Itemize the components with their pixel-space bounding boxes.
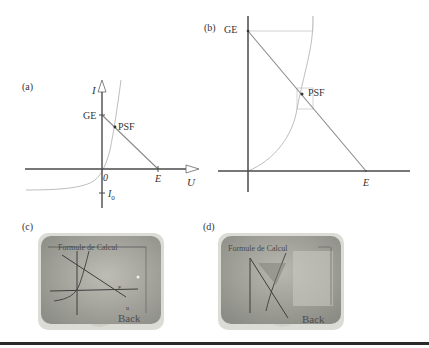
panel-c-screen-title: Formule de Calcul [58, 243, 118, 252]
panel-b-e-point [365, 170, 367, 172]
panel-a-origin-label: 0 [103, 172, 108, 183]
panel-a-label: (a) [22, 81, 33, 93]
panel-b-load-line [248, 31, 366, 171]
panel-d-back-label: Back [302, 313, 325, 325]
panel-a-i-axis-label: I [91, 84, 97, 96]
panel-b-psf-point [301, 93, 304, 96]
panel-b-e-label: E [362, 177, 369, 188]
panel-a-u-arrow-icon [186, 165, 199, 173]
panel-d-label: (d) [203, 221, 215, 233]
panel-b-ge-point [247, 30, 250, 33]
panel-a-psf-label: PSF [118, 121, 135, 132]
bottom-rule [0, 342, 429, 345]
panel-a-ge-label: GE [83, 110, 96, 121]
panel-a-psf-point [114, 126, 117, 129]
panel-b-ge-label: GE [224, 24, 237, 35]
panel-a-i-arrow-icon [98, 80, 106, 92]
panel-a-e-label: E [154, 173, 161, 184]
panel-a-u-axis-label: U [187, 176, 196, 188]
panel-b-psf-label: PSF [308, 87, 325, 98]
panel-b-label: (b) [204, 22, 216, 34]
panel-c-label: (c) [22, 221, 33, 233]
panel-c-device-photo: Formule de Calcul u E Back [38, 233, 164, 330]
panel-a-i0-label: I0 [107, 188, 115, 202]
panel-c-back-label: Back [118, 312, 141, 324]
panel-d-screen-title: Formule de Calcul [228, 244, 288, 253]
svg-text:E: E [118, 285, 122, 291]
panel-d-device-photo: Formule de Calcul Back [218, 233, 344, 330]
svg-text:u: u [126, 305, 129, 311]
